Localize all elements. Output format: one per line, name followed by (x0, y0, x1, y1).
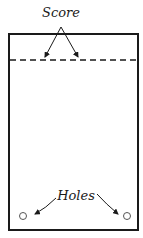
score-arrow-right (61, 27, 78, 57)
hole-left (20, 213, 27, 220)
holes-arrow-right (97, 194, 118, 214)
hole-right (124, 213, 131, 220)
holes-arrow-left (35, 198, 56, 214)
score-label: Score (42, 5, 80, 20)
diagram: Score Holes (0, 0, 143, 238)
holes-label: Holes (56, 188, 95, 203)
score-arrow-left (45, 27, 61, 57)
